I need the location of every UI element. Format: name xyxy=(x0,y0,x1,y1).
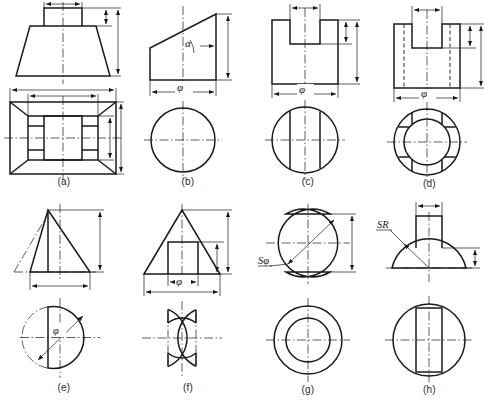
figure-d-label-phi: φ xyxy=(421,87,427,99)
figure-b-caption: (b) xyxy=(128,176,248,187)
figure-h-svg: SR xyxy=(368,196,491,405)
figure-b-label-alpha: α xyxy=(185,37,191,49)
figure-h-label-sr: SR xyxy=(377,219,389,230)
figure-c-label-phi: φ xyxy=(299,83,305,95)
figure-b: α φ (b) xyxy=(128,0,248,195)
figure-f-svg: φ xyxy=(128,196,248,405)
figure-d: φ (d) xyxy=(368,0,491,195)
figure-g-svg: Sφ xyxy=(248,196,368,405)
figure-e-dim-diameter-leader xyxy=(38,316,83,360)
figure-e-label-phi: φ xyxy=(53,325,59,336)
figure-e: φ (e) xyxy=(0,196,128,405)
figure-a-caption: (a) xyxy=(0,176,128,187)
figure-d-svg: φ xyxy=(368,0,491,195)
figure-h-caption: (h) xyxy=(368,384,491,395)
figure-e-caption: (e) xyxy=(0,382,128,393)
figure-g-label-sphi: Sφ xyxy=(258,255,269,266)
figure-a: (a) xyxy=(0,0,128,195)
figure-a-svg xyxy=(0,0,128,195)
figure-b-label-phi: φ xyxy=(177,81,183,93)
figure-e-svg: φ xyxy=(0,196,128,405)
figure-c-caption: (c) xyxy=(248,176,368,187)
figure-g: Sφ (g) xyxy=(248,196,368,405)
figure-c-svg: φ xyxy=(248,0,368,195)
figure-g-caption: (g) xyxy=(248,384,368,395)
figure-h: SR (h) xyxy=(368,196,491,405)
figure-c: φ (c) xyxy=(248,0,368,195)
figure-g-top-inner-circle xyxy=(286,318,330,362)
figure-f-caption: (f) xyxy=(128,382,248,393)
figure-e-cone-left-element xyxy=(14,214,48,272)
figure-b-svg: α φ xyxy=(128,0,248,195)
drawing-sheet: (a) α xyxy=(0,0,491,405)
figure-f: φ (f) xyxy=(128,196,248,405)
figure-f-label-phi: φ xyxy=(176,275,182,287)
figure-d-caption: (d) xyxy=(368,178,491,189)
